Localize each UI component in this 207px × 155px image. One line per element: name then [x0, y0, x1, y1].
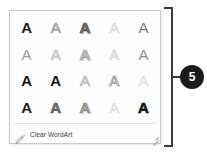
wordart-style-style-3-4[interactable]: A [100, 68, 129, 95]
wordart-style-style-4-2[interactable]: A [41, 94, 70, 121]
wordart-style-preview-glyph: A [80, 20, 91, 35]
wordart-style-preview-glyph: A [50, 73, 61, 88]
wordart-style-preview-glyph: A [138, 73, 148, 88]
wordart-style-preview-glyph: A [138, 20, 148, 35]
resize-grip-line [153, 140, 159, 146]
wordart-gallery-panel: AAAAAAAAAAAAAAAAAAAA Clear WordArt [9, 10, 161, 144]
wordart-style-preview-glyph: A [80, 100, 91, 115]
annotation-badge-number: 5 [189, 71, 196, 83]
wordart-style-preview-glyph: A [51, 47, 61, 62]
wordart-style-style-4-4[interactable]: A [100, 94, 129, 121]
wordart-style-style-1-1[interactable]: A [12, 14, 41, 41]
wordart-style-preview-glyph: A [138, 100, 149, 115]
wordart-style-style-3-3[interactable]: A [70, 68, 99, 95]
wordart-style-preview-glyph: A [109, 100, 119, 115]
wordart-style-grid: AAAAAAAAAAAAAAAAAAAA [10, 11, 160, 121]
wordart-style-style-2-2[interactable]: A [41, 41, 70, 68]
wordart-style-style-4-5[interactable]: A [129, 94, 158, 121]
wordart-style-preview-glyph: A [22, 47, 32, 62]
wordart-style-preview-glyph: A [21, 73, 32, 88]
wordart-style-preview-glyph: A [80, 73, 90, 88]
wordart-style-style-1-4[interactable]: A [100, 14, 129, 41]
wordart-style-preview-glyph: A [51, 20, 61, 35]
wordart-style-style-1-2[interactable]: A [41, 14, 70, 41]
wordart-style-style-3-2[interactable]: A [41, 68, 70, 95]
wordart-style-preview-glyph: A [109, 20, 119, 35]
wordart-style-style-4-3[interactable]: A [70, 94, 99, 121]
wordart-style-preview-glyph: A [138, 47, 148, 62]
wordart-style-style-1-3[interactable]: A [70, 14, 99, 41]
wordart-style-style-3-5[interactable]: A [129, 68, 158, 95]
wordart-style-preview-glyph: A [21, 20, 32, 35]
wordart-style-preview-glyph: A [50, 100, 61, 115]
wordart-style-preview-glyph: A [21, 100, 32, 115]
clear-wordart-label: Clear WordArt [30, 131, 72, 138]
clear-wordart-button[interactable]: Clear WordArt [10, 126, 160, 143]
wordart-style-style-2-3[interactable]: A [70, 41, 99, 68]
wordart-style-preview-glyph: A [80, 47, 91, 62]
wordart-style-style-4-1[interactable]: A [12, 94, 41, 121]
wordart-style-style-2-4[interactable]: A [100, 41, 129, 68]
wordart-style-style-1-5[interactable]: A [129, 14, 158, 41]
wordart-style-preview-glyph: A [109, 73, 119, 88]
annotation-badge-5: 5 [180, 65, 204, 89]
resize-grip-handle[interactable] [150, 133, 159, 142]
wordart-style-preview-glyph: A [109, 47, 119, 62]
wordart-style-style-3-1[interactable]: A [12, 68, 41, 95]
clear-wordart-icon [15, 130, 25, 140]
wordart-style-style-2-1[interactable]: A [12, 41, 41, 68]
panel-separator [14, 123, 156, 124]
wordart-style-style-2-5[interactable]: A [129, 41, 158, 68]
